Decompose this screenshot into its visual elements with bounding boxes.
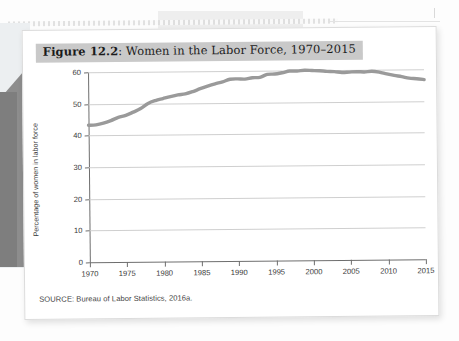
x-tick-mark xyxy=(351,260,352,265)
chart-plot-area: 0102030405060 19701975198019851990199520… xyxy=(88,69,426,262)
x-tick-label: 2005 xyxy=(343,267,360,276)
chart-plot-region: Percentage of women in labor force 01020… xyxy=(36,69,426,285)
x-tick-mark xyxy=(388,259,389,264)
x-tick-label: 2010 xyxy=(380,266,397,275)
x-tick-label: 1975 xyxy=(119,269,136,278)
x-tick-mark xyxy=(165,262,166,267)
x-tick-label: 2000 xyxy=(305,267,322,276)
x-tick-label: 1990 xyxy=(231,268,248,277)
x-tick-mark xyxy=(239,261,240,266)
x-tick-label: 1980 xyxy=(156,269,173,278)
x-tick-mark xyxy=(90,262,91,267)
figure-card: Figure 12.2: Women in the Labor Force, 1… xyxy=(22,26,440,320)
y-tick-label: 60 xyxy=(73,68,82,77)
x-tick-label: 1985 xyxy=(193,268,210,277)
figure-title-text: : Women in the Labor Force, 1970–2015 xyxy=(118,42,356,58)
x-tick-mark xyxy=(426,259,427,264)
x-tick-label: 1995 xyxy=(268,267,285,276)
page-title: Figure 12.2: Women in the Labor Force, 1… xyxy=(43,44,356,59)
x-tick-mark xyxy=(202,261,203,266)
y-tick-label: 50 xyxy=(73,100,82,109)
background-dark-slab-edge xyxy=(0,92,17,267)
x-tick-mark xyxy=(314,260,315,265)
x-tick-mark xyxy=(276,261,277,266)
photo-background: Figure 12.2: Women in the Labor Force, 1… xyxy=(0,0,459,341)
background-corner-tick xyxy=(434,8,435,18)
y-tick-label: 40 xyxy=(73,131,82,140)
x-tick-mark xyxy=(127,262,128,267)
source-note: SOURCE: Bureau of Labor Statistics, 2016… xyxy=(39,293,192,303)
x-tick-label: 2015 xyxy=(417,266,434,275)
background-sheet-edge xyxy=(330,21,440,22)
x-tick-label: 1970 xyxy=(81,269,98,278)
figure-title-band: Figure 12.2: Women in the Labor Force, 1… xyxy=(36,41,363,63)
y-tick-label: 10 xyxy=(74,226,83,235)
y-axis-label: Percentage of women in labor force xyxy=(30,121,40,239)
y-tick-label: 30 xyxy=(73,163,82,172)
data-series-line xyxy=(88,69,426,262)
y-tick-label: 0 xyxy=(79,258,83,267)
y-tick-label: 20 xyxy=(74,195,83,204)
figure-number: Figure 12.2 xyxy=(43,44,119,59)
